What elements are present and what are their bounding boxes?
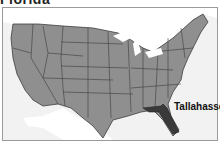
map-title: Florida [0, 0, 50, 7]
us-map-graphic [3, 8, 217, 140]
capital-label: Tallahassee [174, 101, 220, 112]
us-map [2, 7, 218, 141]
